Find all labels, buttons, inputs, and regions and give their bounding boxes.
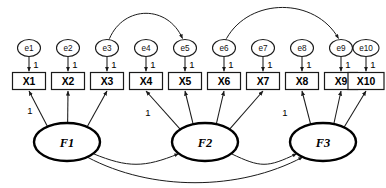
loading-one-label-X1: 1 <box>27 105 32 116</box>
loading-arrow-F1-to-X3 <box>87 91 107 127</box>
error-loading-layer <box>29 57 366 72</box>
error-label-e8: e8 <box>297 44 307 53</box>
observed-variable-X7: X7 <box>247 73 280 90</box>
loading-arrow-F2-to-X7 <box>229 91 263 130</box>
loading-arrow-F2-to-X6 <box>216 91 224 125</box>
error-label-e6: e6 <box>219 44 229 53</box>
error-label-e2: e2 <box>63 44 73 53</box>
observed-label-X9: X9 <box>335 76 348 87</box>
error-correlation-e6-e9 <box>227 7 339 38</box>
observed-label-X7: X7 <box>257 76 270 87</box>
sem-path-diagram: X1X2X3X4X5X6X7X8X9X10 e1e2e3e4e5e6e7e8e9… <box>0 0 386 188</box>
factor-label-F3: F3 <box>315 136 331 150</box>
observed-label-X5: X5 <box>179 76 192 87</box>
error-term-e2: e2 <box>57 40 80 57</box>
latent-factor-F3: F3 <box>290 123 356 161</box>
error-one-label-e5: 1 <box>189 59 194 70</box>
observed-variable-X1: X1 <box>13 73 46 90</box>
error-one-label-e3: 1 <box>111 59 116 70</box>
error-term-e7: e7 <box>252 40 275 57</box>
error-one-label-e8: 1 <box>306 59 311 70</box>
error-term-e6: e6 <box>213 40 236 57</box>
error-label-e7: e7 <box>258 44 268 53</box>
observed-label-X10: X10 <box>357 76 376 87</box>
observed-label-X4: X4 <box>140 76 153 87</box>
error-label-e5: e5 <box>180 44 190 53</box>
observed-variable-X6: X6 <box>208 73 241 90</box>
loading-arrow-F3-to-X8 <box>302 91 311 125</box>
observed-label-X1: X1 <box>23 76 36 87</box>
error-term-e5: e5 <box>174 40 197 57</box>
observed-variable-layer: X1X2X3X4X5X6X7X8X9X10 <box>13 73 385 90</box>
error-one-label-e1: 1 <box>33 59 38 70</box>
error-one-label-e4: 1 <box>150 59 155 70</box>
error-one-label-e10: 1 <box>370 59 375 70</box>
latent-factor-layer: F1F2F3 <box>34 123 356 161</box>
error-label-e3: e3 <box>102 44 112 53</box>
loading-one-label-X4: 1 <box>145 107 150 118</box>
error-one-label-e2: 1 <box>72 59 77 70</box>
error-label-e4: e4 <box>141 44 151 53</box>
loading-arrow-F3-to-X9 <box>334 91 341 125</box>
error-correlation-layer <box>110 7 339 38</box>
error-correlation-e3-e5 <box>110 13 183 38</box>
observed-variable-X8: X8 <box>286 73 319 90</box>
factor-correlation-F1-F2 <box>93 154 178 165</box>
observed-label-X8: X8 <box>296 76 309 87</box>
observed-label-X6: X6 <box>218 76 231 87</box>
error-term-e1: e1 <box>18 40 41 57</box>
error-term-e8: e8 <box>291 40 314 57</box>
error-term-layer: e1e2e3e4e5e6e7e8e9e10 <box>18 40 380 57</box>
observed-variable-X4: X4 <box>130 73 163 90</box>
error-term-e9: e9 <box>330 40 353 57</box>
error-one-label-e7: 1 <box>267 59 272 70</box>
observed-variable-X5: X5 <box>169 73 202 90</box>
loading-arrow-F3-to-X10 <box>344 91 366 128</box>
error-term-e4: e4 <box>135 40 158 57</box>
error-term-e3: e3 <box>96 40 119 57</box>
error-one-label-e9: 1 <box>345 59 350 70</box>
observed-label-X3: X3 <box>101 76 114 87</box>
observed-variable-X2: X2 <box>52 73 85 90</box>
error-label-e9: e9 <box>336 44 346 53</box>
error-label-e1: e1 <box>24 44 34 53</box>
observed-variable-X10: X10 <box>348 73 384 90</box>
loading-arrow-F2-to-X4 <box>146 91 181 130</box>
loading-one-label-X8: 1 <box>282 107 287 118</box>
error-one-label-e6: 1 <box>228 59 233 70</box>
latent-factor-F1: F1 <box>34 123 100 161</box>
diagram-canvas: X1X2X3X4X5X6X7X8X9X10 e1e2e3e4e5e6e7e8e9… <box>0 0 386 188</box>
factor-label-F2: F2 <box>197 136 213 150</box>
error-label-e10: e10 <box>359 44 373 53</box>
factor-label-F1: F1 <box>59 136 75 150</box>
observed-label-X2: X2 <box>62 76 75 87</box>
latent-factor-F2: F2 <box>172 123 238 161</box>
loading-arrow-F2-to-X5 <box>185 91 193 125</box>
observed-variable-X3: X3 <box>91 73 124 90</box>
error-term-e10: e10 <box>353 40 379 57</box>
factor-correlation-F2-F3 <box>231 154 296 165</box>
